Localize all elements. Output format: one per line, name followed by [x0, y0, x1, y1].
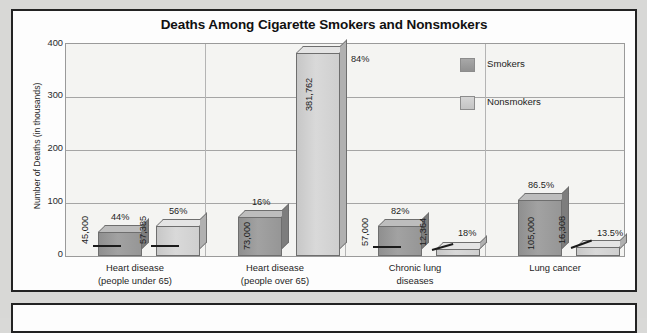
lower-panel — [11, 303, 637, 333]
category-label-line2: (people over 65) — [205, 275, 345, 288]
legend-label-nonsmokers: Nonsmokers — [487, 96, 541, 107]
value-label-nonsmokers-heart-under-65: 57,385 — [138, 216, 148, 244]
y-tick-300: 300 — [27, 90, 63, 100]
bar-nonsmokers-heart-under-65 — [156, 226, 200, 256]
leader-line — [151, 245, 179, 247]
category-label-chronic-lung: Chronic lung diseases — [345, 262, 485, 287]
bar-smokers-heart-under-65 — [98, 232, 142, 256]
category-label-line1: Heart disease — [205, 262, 345, 275]
pct-label-smokers-lung-cancer: 86.5% — [528, 180, 554, 190]
pct-label-nonsmokers-lung-cancer: 13.5% — [597, 228, 623, 238]
category-label-line2: (people under 65) — [65, 275, 205, 288]
legend-swatch-smokers — [460, 58, 475, 72]
leader-line — [93, 245, 121, 247]
y-tick-0: 0 — [27, 249, 63, 259]
pct-label-smokers-heart-under-65: 44% — [111, 212, 129, 222]
value-label-smokers-lung-cancer: 105,000 — [526, 217, 536, 250]
value-label-nonsmokers-lung-cancer: 16,308 — [557, 216, 567, 244]
bar-smokers-chronic-lung — [378, 226, 422, 256]
bar-front-face — [296, 53, 340, 256]
legend-item-nonsmokers: Nonsmokers — [460, 92, 590, 116]
category-label-line2: diseases — [345, 275, 485, 288]
category-label-line1: Lung cancer — [485, 262, 625, 275]
legend-item-smokers: Smokers — [460, 54, 590, 78]
value-label-smokers-chronic-lung: 57,000 — [360, 218, 370, 246]
pct-label-smokers-heart-over-65: 16% — [252, 197, 270, 207]
bar-side-face — [340, 39, 347, 249]
category-label-heart-under-65: Heart disease (people under 65) — [65, 262, 205, 287]
bar-nonsmokers-lung-cancer — [576, 247, 620, 256]
pct-label-nonsmokers-chronic-lung: 18% — [458, 228, 476, 238]
category-label-line1: Chronic lung — [345, 262, 485, 275]
pct-label-nonsmokers-heart-under-65: 56% — [169, 206, 187, 216]
leader-line — [373, 246, 401, 248]
bar-nonsmokers-heart-over-65 — [296, 53, 340, 256]
category-label-heart-over-65: Heart disease (people over 65) — [205, 262, 345, 287]
pct-label-nonsmokers-heart-over-65: 84% — [351, 54, 369, 64]
bar-front-face — [576, 247, 620, 256]
y-tick-400: 400 — [27, 38, 63, 48]
value-label-smokers-heart-over-65: 73,000 — [242, 222, 252, 250]
y-tick-100: 100 — [27, 196, 63, 206]
bar-front-face — [436, 249, 480, 256]
bar-front-face — [98, 232, 142, 256]
chart-panel: Deaths Among Cigarette Smokers and Nonsm… — [11, 9, 637, 292]
y-tick-200: 200 — [27, 143, 63, 153]
chart-title: Deaths Among Cigarette Smokers and Nonsm… — [13, 17, 635, 32]
bar-side-face — [282, 203, 289, 249]
category-label-lung-cancer: Lung cancer — [485, 262, 625, 275]
value-label-smokers-heart-under-65: 45,000 — [80, 216, 90, 244]
legend-label-smokers: Smokers — [487, 58, 525, 69]
pct-label-smokers-chronic-lung: 82% — [391, 206, 409, 216]
bar-smokers-lung-cancer — [518, 200, 562, 256]
bar-front-face — [518, 200, 562, 256]
legend-swatch-nonsmokers — [460, 96, 475, 110]
legend: Smokers Nonsmokers — [460, 54, 590, 116]
value-label-nonsmokers-heart-over-65: 381,762 — [304, 78, 314, 111]
bar-front-face — [378, 226, 422, 256]
category-label-line1: Heart disease — [65, 262, 205, 275]
y-axis-ticks: 400 300 200 100 0 — [20, 11, 63, 294]
bar-front-face — [156, 226, 200, 256]
bar-nonsmokers-chronic-lung — [436, 249, 480, 256]
value-label-nonsmokers-chronic-lung: 12,364 — [418, 218, 428, 246]
